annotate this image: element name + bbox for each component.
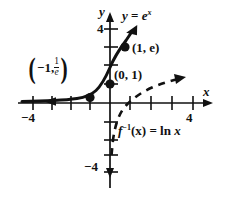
inverse-equals-ln: = ln: [146, 123, 174, 138]
inverse-argument: (x): [131, 123, 146, 138]
point-label-neg1-inv-e: (−1,1e): [27, 56, 69, 79]
exponential-curve-left-arrow: [44, 97, 56, 106]
open-paren: (: [28, 56, 35, 79]
inverse-exponent: −1: [122, 123, 131, 132]
x-tick-label-4: 4: [186, 111, 193, 124]
point-label-1-e: (1, e): [132, 41, 159, 54]
y-tick-label-4: 4: [97, 22, 104, 35]
y-axis-arrow-up: [106, 12, 114, 22]
graph-canvas: [0, 0, 227, 197]
x-tick-label--4: −4: [21, 111, 35, 124]
neg1-x-value: −1,: [37, 61, 54, 74]
point-neg1-inv-e: [85, 93, 94, 102]
y-axis-label: y: [99, 5, 105, 18]
point-1-e: [120, 42, 129, 51]
exp-exponent: x: [147, 8, 151, 17]
y-tick-label--4: −4: [84, 160, 98, 173]
y-axis-arrow-down: [106, 168, 114, 178]
exponential-log-graph-figure: y x 4 −4 −4 4 y = ex (1, e) (0, 1) (−1,1…: [0, 0, 227, 197]
x-axis-label: x: [203, 85, 210, 98]
exp-equals: =: [128, 8, 142, 23]
one-over-e-fraction: 1e: [54, 57, 59, 77]
exponential-function-label: y = ex: [122, 9, 152, 22]
point-label-0-1: (0, 1): [114, 68, 142, 81]
exponential-curve-arrow: [126, 23, 139, 35]
x-axis-arrow-right: [203, 99, 213, 107]
inverse-variable: x: [174, 123, 181, 138]
fraction-numerator: 1: [54, 57, 59, 67]
close-paren: ): [60, 56, 67, 79]
log-curve-arrow: [174, 74, 186, 84]
fraction-denominator: e: [54, 67, 59, 78]
log-curve: [112, 80, 177, 156]
inverse-function-label: f−1(x) = ln x: [118, 124, 181, 137]
